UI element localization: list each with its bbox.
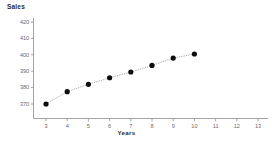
x-axis-title: Years	[0, 129, 277, 136]
plot-area	[0, 0, 277, 143]
data-point-7	[128, 69, 133, 74]
sales-vs-years-chart: Sales 420410400390380370 345678910111213…	[0, 0, 277, 143]
x-axis-title-text: Years	[117, 129, 135, 136]
series-polyline	[46, 54, 194, 104]
data-point-6	[107, 75, 112, 80]
series-markers	[43, 51, 197, 106]
data-point-8	[149, 63, 154, 68]
data-point-4	[65, 89, 70, 94]
y-tick-label-400: 400	[7, 52, 29, 58]
axis-lines	[34, 18, 269, 119]
data-point-3	[43, 101, 48, 106]
data-point-10	[192, 51, 197, 56]
data-point-5	[86, 82, 91, 87]
y-tick-label-390: 390	[7, 68, 29, 74]
series-line	[46, 54, 194, 104]
y-tick-label-420: 420	[7, 19, 29, 25]
data-point-9	[171, 55, 176, 60]
y-tick-label-370: 370	[7, 101, 29, 107]
y-tick-label-410: 410	[7, 35, 29, 41]
y-tick-label-380: 380	[7, 84, 29, 90]
